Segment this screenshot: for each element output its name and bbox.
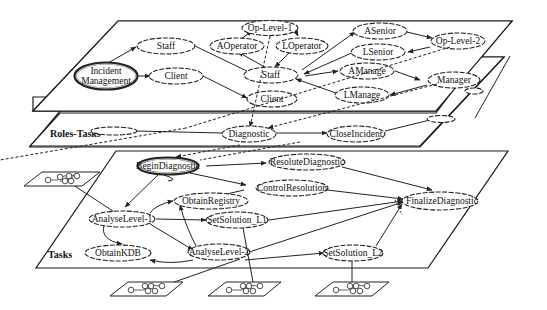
node-label: AManage: [348, 66, 385, 76]
node-lmanage[interactable]: LManage: [335, 87, 389, 103]
node-analyse-level-1[interactable]: AnalyseLevel-1: [89, 211, 155, 227]
node-roles-right-blank[interactable]: [465, 88, 483, 94]
node-loperator[interactable]: LOperator: [276, 38, 328, 54]
node-label: AnalyseLevel-2: [189, 247, 250, 257]
node-label: LOperator: [282, 41, 322, 51]
node-client-left[interactable]: Client: [149, 68, 203, 84]
node-label: Staff: [157, 41, 176, 51]
node-finalize-diagnostic[interactable]: FinalizeDiagnostic: [402, 192, 478, 210]
node-label: BeginDiagnostic: [136, 161, 200, 171]
node-label: Op-Level-2: [436, 36, 481, 46]
node-label: LManage: [344, 90, 380, 100]
node-label: Client: [164, 71, 188, 81]
node-set-solution-l2[interactable]: SetSolution_L2: [323, 245, 383, 261]
node-staff-left[interactable]: Staff: [137, 38, 195, 54]
node-set-solution-l1[interactable]: SetSolution_L1: [206, 212, 268, 228]
node-label: FinalizeDiagnostic: [406, 196, 478, 206]
node-analyse-level-2[interactable]: AnalyseLevel-2: [188, 244, 250, 260]
node-rt-left-blank[interactable]: [91, 127, 137, 135]
node-rt-right-blank[interactable]: [427, 116, 455, 123]
node-staff-center[interactable]: Staff: [244, 67, 298, 83]
node-label: ObtainKDB: [95, 248, 141, 258]
node-label: Staff: [262, 70, 281, 80]
node-label: Manager: [437, 75, 472, 85]
node-label: AOperator: [217, 41, 258, 51]
sub-workflow-2[interactable]: [208, 282, 281, 296]
node-label: AnalyseLevel-1: [92, 214, 153, 224]
node-manager[interactable]: Manager: [428, 72, 480, 88]
node-resolute-diagnostic[interactable]: ResoluteDiagnostic: [269, 154, 345, 170]
node-label: SetSolution_L2: [323, 248, 383, 258]
sub-workflow-3[interactable]: [315, 282, 389, 296]
workflow-diagram: Roles Roles-Tasks Tasks Inc: [0, 0, 547, 310]
node-label: LSenior: [363, 47, 394, 57]
node-obtain-registry[interactable]: ObtainRegistry: [174, 193, 248, 209]
node-label: ControlResolution: [257, 183, 327, 193]
tasks-layer-label: Tasks: [48, 249, 72, 260]
node-label: Incident: [90, 66, 121, 76]
node-label: Management: [81, 76, 131, 86]
node-asenior[interactable]: ASenior: [353, 23, 407, 39]
node-label: ASenior: [364, 26, 397, 36]
node-obtain-kdb[interactable]: ObtainKDB: [85, 245, 151, 261]
node-label: ObtainRegistry: [182, 196, 240, 206]
node-amanage[interactable]: AManage: [340, 63, 394, 79]
node-label: Diagnostic: [228, 129, 269, 139]
node-op-level-1[interactable]: Op-Level-1: [242, 21, 298, 36]
node-begin-diagnostic[interactable]: BeginDiagnostic: [136, 158, 200, 174]
node-incident-management[interactable]: Incident Management: [75, 63, 137, 89]
node-diagnostic[interactable]: Diagnostic: [222, 126, 276, 142]
node-label: Op-Level-1: [248, 23, 293, 33]
node-label: SetSolution_L1: [207, 215, 267, 225]
sub-workflow-1[interactable]: [110, 282, 183, 296]
node-label: CloseIncident: [330, 129, 383, 139]
node-label: ResoluteDiagnostic: [270, 157, 344, 167]
node-close-incident[interactable]: CloseIncident: [327, 126, 385, 142]
sub-workflow-left[interactable]: [24, 172, 100, 186]
node-lsenior[interactable]: LSenior: [351, 44, 405, 60]
node-aoperator[interactable]: AOperator: [210, 38, 264, 54]
node-control-resolution[interactable]: ControlResolution: [256, 180, 328, 196]
node-op-level-2[interactable]: Op-Level-2: [431, 33, 485, 49]
